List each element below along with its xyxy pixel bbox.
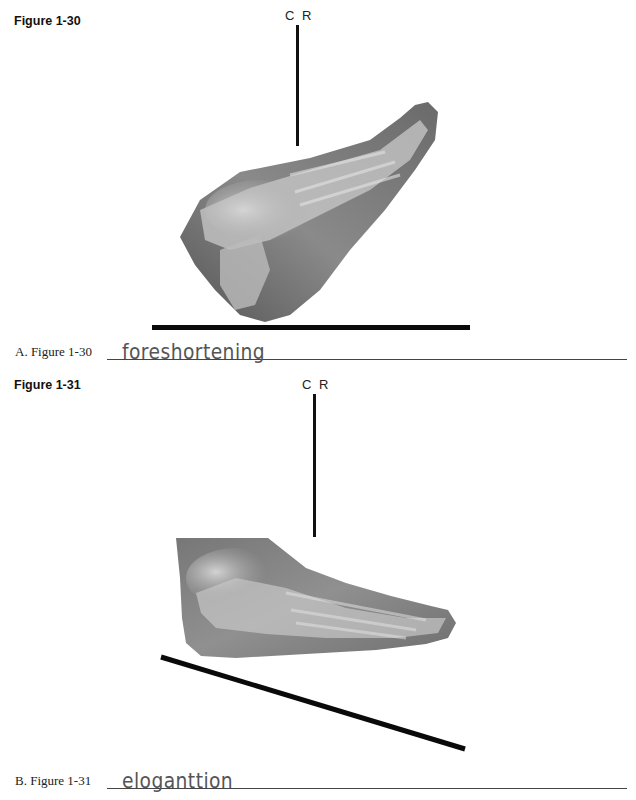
answer-input-b[interactable]: eloganttion — [122, 768, 233, 793]
answer-label-b: B. Figure 1-31 — [15, 773, 91, 789]
image-receptor-line-1-31 — [0, 0, 636, 800]
answer-row-b: B. Figure 1-31 eloganttion — [15, 767, 627, 791]
